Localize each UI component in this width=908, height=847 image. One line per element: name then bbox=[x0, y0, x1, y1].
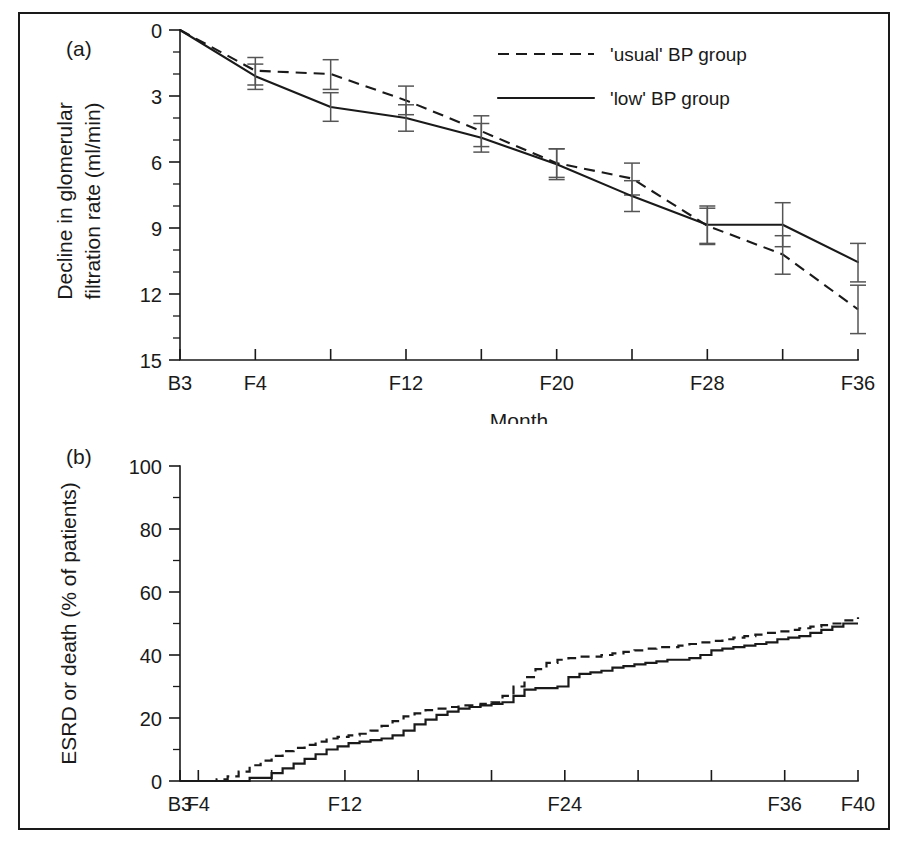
panel-b-x-ticklabel: F36 bbox=[767, 793, 801, 815]
panel-a-y-ticklabel: 0 bbox=[151, 20, 162, 42]
panel-a-y-ticklabel: 6 bbox=[151, 152, 162, 174]
figure-root: (a)03691215B3F4F12F20F28F36MonthDecline … bbox=[0, 0, 908, 847]
panel-a-series-usual-errorbar bbox=[323, 60, 339, 90]
panel-a-series-low-errorbar bbox=[624, 181, 640, 212]
panel-b-x-ticklabel: F4 bbox=[187, 793, 210, 815]
panel-a-y-ticklabel: 3 bbox=[151, 86, 162, 108]
panel-a-x-ticklabel: F12 bbox=[389, 372, 423, 394]
panel-a-tag: (a) bbox=[66, 37, 92, 60]
panel-a-y-ticklabel: 12 bbox=[140, 284, 162, 306]
panel-b-series-low bbox=[180, 624, 858, 782]
panel-b-x-ticklabel: F12 bbox=[328, 793, 362, 815]
figure-border: (a)03691215B3F4F12F20F28F36MonthDecline … bbox=[18, 12, 890, 830]
panel-a-x-ticklabel: F4 bbox=[244, 372, 267, 394]
panel-b-x-ticklabel: F40 bbox=[841, 793, 875, 815]
panel-b-series-usual bbox=[180, 617, 858, 781]
panel-a-x-ticklabel: F28 bbox=[690, 372, 724, 394]
panel-b-ylabel: ESRD or death (% of patients) bbox=[57, 482, 80, 764]
panel-a-x-ticklabel: B3 bbox=[168, 372, 192, 394]
panel-a-series-usual bbox=[180, 30, 858, 309]
panel-a-x-ticklabel: F36 bbox=[841, 372, 875, 394]
panel-b-y-ticklabel: 80 bbox=[140, 519, 162, 541]
panel-b-y-ticklabel: 100 bbox=[129, 456, 162, 478]
panel-a-xlabel: Month bbox=[490, 409, 548, 424]
panel-a-svg: (a)03691215B3F4F12F20F28F36MonthDecline … bbox=[20, 14, 888, 424]
panel-a-y-ticklabel: 9 bbox=[151, 218, 162, 240]
panel-b-svg: (b)020406080100B3F4F12F24F36F40MonthESRD… bbox=[20, 424, 888, 828]
panel-a-ylabel-line2: filtration rate (ml/min) bbox=[81, 102, 104, 299]
panel-a-series-low-errorbar bbox=[549, 149, 565, 180]
panel-a-legend: 'usual' BP group'low' BP group bbox=[498, 44, 747, 109]
panel-b-tag: (b) bbox=[66, 445, 92, 468]
panel-b-y-ticklabel: 20 bbox=[140, 708, 162, 730]
legend-label-low: 'low' BP group bbox=[610, 88, 730, 109]
panel-a-y-ticklabel: 15 bbox=[140, 350, 162, 372]
panel-a-glomerular-filtration-decline: (a)03691215B3F4F12F20F28F36MonthDecline … bbox=[20, 14, 888, 424]
panel-b-x-ticklabel: F24 bbox=[548, 793, 582, 815]
panel-b-y-ticklabel: 40 bbox=[140, 645, 162, 667]
panel-b-esrd-or-death: (b)020406080100B3F4F12F24F36F40MonthESRD… bbox=[20, 424, 888, 828]
panel-a-ylabel-line1: Decline in glomerular bbox=[53, 102, 76, 299]
panel-b-y-ticklabel: 0 bbox=[151, 771, 162, 793]
panel-a-axes bbox=[180, 30, 858, 360]
legend-label-usual: 'usual' BP group bbox=[610, 44, 747, 65]
panel-b-y-ticklabel: 60 bbox=[140, 582, 162, 604]
panel-a-x-ticklabel: F20 bbox=[539, 372, 573, 394]
panel-a-series-low-errorbar bbox=[850, 243, 866, 282]
panel-a-series-usual-errorbar bbox=[850, 285, 866, 333]
panel-b-axes bbox=[180, 466, 858, 781]
